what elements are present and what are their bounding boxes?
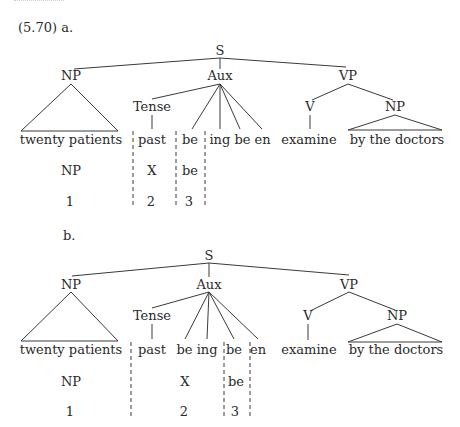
index-2: 2 (147, 194, 155, 209)
analysis-be: be (182, 163, 198, 178)
syntax-tree-figure: (5.70) a. S NP Aux VP Tense V NP twenty … (0, 0, 460, 427)
leaf-subject: twenty patients (20, 132, 123, 147)
leaf-be: be (182, 132, 198, 147)
node-np-subject: NP (61, 68, 81, 83)
leaf-verb: examine (281, 132, 337, 147)
leaf-en: en (250, 342, 267, 357)
example-label-a: (5.70) a. (18, 20, 73, 35)
leaf-past: past (138, 342, 167, 357)
node-tense: Tense (133, 99, 171, 114)
leaf-subject: twenty patients (20, 342, 123, 357)
node-v: V (304, 99, 315, 114)
index-2: 2 (180, 404, 188, 419)
leaf-ing-be-en: ing be en (209, 132, 271, 147)
node-s: S (216, 43, 225, 58)
leaf-past: past (138, 132, 167, 147)
node-s: S (205, 248, 214, 263)
tree-a: S NP Aux VP Tense V NP twenty patients p… (20, 43, 445, 209)
leaf-agent: by the doctors (350, 132, 445, 147)
analysis-np: NP (61, 163, 81, 178)
index-3: 3 (231, 404, 239, 419)
node-aux: Aux (195, 277, 222, 292)
analysis-be: be (228, 374, 244, 389)
leaf-be-ing: be ing (177, 342, 218, 357)
node-np-subject: NP (61, 277, 81, 292)
node-tense: Tense (133, 308, 171, 323)
analysis-x: X (180, 374, 190, 389)
tree-b: S NP Aux VP Tense V NP twenty patients p… (20, 248, 444, 419)
node-np-agent: NP (387, 308, 407, 323)
leaf-be: be (226, 342, 242, 357)
leaf-verb: examine (281, 342, 337, 357)
leaf-agent: by the doctors (349, 342, 444, 357)
node-vp: VP (339, 277, 358, 292)
index-1: 1 (66, 194, 74, 209)
node-np-agent: NP (385, 99, 405, 114)
example-label-b: b. (63, 228, 75, 243)
analysis-np: NP (61, 374, 81, 389)
index-1: 1 (66, 404, 74, 419)
node-aux: Aux (206, 68, 233, 83)
node-vp: VP (338, 68, 357, 83)
index-3: 3 (185, 194, 193, 209)
analysis-x: X (147, 163, 157, 178)
